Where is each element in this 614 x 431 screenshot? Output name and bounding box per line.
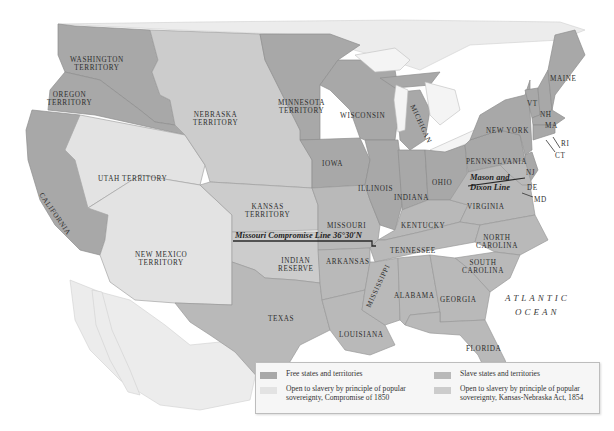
label-vermont: VT: [527, 100, 538, 108]
legend-item-kansas-nebraska: Open to slavery by principle of popular …: [434, 385, 594, 402]
legend-label-compromise-1850: Open to slavery by principle of popular …: [286, 385, 428, 402]
label-rhode-island: RI: [561, 140, 569, 148]
label-new-jersey: NJ: [526, 169, 535, 177]
label-massachusetts: MA: [545, 122, 558, 130]
label-maryland: MD: [534, 196, 547, 204]
maine: [548, 30, 585, 110]
label-kentucky: Kentucky: [401, 222, 445, 230]
label-north-carolina: NorthCarolina: [476, 234, 518, 250]
label-oregon: OregonTerritory: [47, 91, 92, 107]
label-georgia: Georgia: [440, 296, 477, 304]
ri-leader: [553, 137, 560, 148]
label-alabama: Alabama: [394, 292, 435, 300]
legend-item-free: Free states and territories: [260, 370, 363, 379]
label-connecticut: CT: [555, 152, 565, 160]
legend-item-compromise-1850: Open to slavery by principle of popular …: [260, 385, 428, 402]
label-florida: Florida: [466, 345, 501, 353]
wisconsin: [320, 60, 400, 140]
swatch-kansas-nebraska: [434, 387, 451, 394]
missouri-compromise-label: Missouri Compromise Line 36°30′N: [235, 230, 362, 240]
atlantic-ocean-label: ATLANTICOCEAN: [505, 291, 570, 319]
label-missouri: Missouri: [327, 222, 366, 230]
label-maine: Maine: [550, 75, 577, 83]
legend-label-kansas-nebraska: Open to slavery by principle of popular …: [460, 385, 594, 402]
label-iowa: Iowa: [322, 160, 343, 168]
mason-dixon-label: Mason andDixon Line: [470, 172, 510, 192]
label-arkansas: Arkansas: [326, 258, 370, 266]
label-new-hampshire: NH: [540, 111, 552, 119]
label-minnesota: MinnesotaTerritory: [278, 99, 325, 115]
swatch-slave: [434, 372, 451, 379]
label-ohio: Ohio: [432, 179, 452, 187]
map-legend: Free states and territories Slave states…: [255, 362, 600, 414]
legend-label-slave: Slave states and territories: [460, 370, 540, 379]
legend-label-free: Free states and territories: [286, 370, 363, 379]
swatch-free: [260, 372, 277, 379]
label-wisconsin: Wisconsin: [340, 112, 385, 120]
label-louisiana: Louisiana: [339, 331, 384, 339]
ct-leader: [546, 140, 555, 152]
label-indian-reserve: IndianReserve: [278, 257, 314, 273]
label-washington: WashingtonTerritory: [70, 56, 124, 72]
lake-huron: [425, 82, 460, 125]
label-new-mexico: New MexicoTerritory: [135, 251, 187, 267]
label-indiana: Indiana: [394, 194, 429, 202]
label-new-york: New York: [486, 127, 529, 135]
label-illinois: Illinois: [358, 185, 393, 193]
label-texas: Texas: [268, 315, 294, 323]
label-south-carolina: SouthCarolina: [462, 259, 504, 275]
label-kansas: KansasTerritory: [245, 203, 290, 219]
label-pennsylvania: Pennsylvania: [466, 158, 527, 166]
label-utah: Utah Territory: [98, 175, 167, 183]
label-virginia: Virginia: [467, 203, 505, 211]
label-nebraska: NebraskaTerritory: [193, 111, 238, 127]
legend-item-slave: Slave states and territories: [434, 370, 540, 379]
label-tennessee: Tennessee: [390, 247, 436, 255]
swatch-compromise-1850: [260, 387, 277, 394]
label-delaware: DE: [527, 184, 538, 192]
